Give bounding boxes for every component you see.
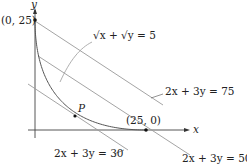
- label-p: P: [77, 102, 86, 114]
- label-75-leader: [151, 94, 163, 98]
- y-axis-label: y: [30, 0, 38, 10]
- x-axis-arrow-icon: [184, 128, 190, 132]
- curve-label: √x + √y = 5: [93, 29, 156, 41]
- point-p: [73, 114, 76, 117]
- label-line-50: 2x + 3y = 50: [182, 152, 247, 164]
- label-line-30: 2x + 3y = 30: [54, 147, 124, 159]
- point-25-0: [144, 128, 148, 132]
- label-0-25: (0, 25): [1, 14, 36, 26]
- label-25-0: (25, 0): [126, 114, 161, 126]
- figure: x y (0, 25) (25, 0) P √x + √y = 5 2x + 3…: [0, 0, 247, 164]
- x-axis-label: x: [193, 123, 199, 135]
- level-line-30: [28, 84, 128, 150]
- label-line-75: 2x + 3y = 75: [165, 85, 235, 97]
